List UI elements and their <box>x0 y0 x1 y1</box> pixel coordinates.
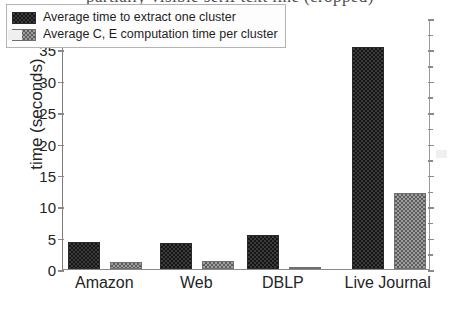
chart-legend: Average time to extract one clusterAvera… <box>6 4 286 48</box>
y-axis-tick-mark-right <box>428 239 434 241</box>
bar-web-series-2 <box>202 261 234 269</box>
y-axis-tick-mark-right <box>428 19 434 21</box>
scan-artifact <box>436 150 447 158</box>
bar-live-journal-series-1 <box>352 47 384 269</box>
y-axis-tick-label: 30 <box>30 74 56 89</box>
y-axis-tick-mark-right <box>428 50 434 52</box>
x-axis-tick-label: Live Journal <box>345 274 431 292</box>
y-axis-tick-mark-right <box>428 82 434 84</box>
legend-swatch-2 <box>12 29 36 41</box>
y-axis-tick-mark <box>58 239 64 241</box>
legend-swatch-1 <box>12 12 36 24</box>
y-axis-tick-mark-right <box>428 145 434 147</box>
bar-amazon-series-2 <box>110 262 142 269</box>
y-axis-minor-tick-mark <box>428 254 433 256</box>
y-axis-tick-mark <box>58 82 64 84</box>
y-axis-minor-tick-mark <box>428 160 433 162</box>
plot-area <box>62 19 430 270</box>
y-axis-tick-mark-right <box>428 207 434 209</box>
y-axis-minor-tick-mark <box>428 129 433 131</box>
y-axis-minor-tick-mark <box>428 192 433 194</box>
y-axis-minor-tick-mark <box>428 35 433 37</box>
y-axis-tick-mark <box>58 176 64 178</box>
y-axis-tick-mark-right <box>428 176 434 178</box>
y-axis-tick-mark-right <box>428 270 434 272</box>
x-axis-tick-label: Amazon <box>75 274 134 292</box>
legend-label-2: Average C, E computation time per cluste… <box>43 28 278 41</box>
bar-dblp-series-2 <box>289 267 321 269</box>
y-axis-tick-label: 0 <box>30 263 56 278</box>
bar-amazon-series-1 <box>68 242 100 269</box>
x-axis-tick-labels: AmazonWebDBLPLive Journal <box>62 274 430 300</box>
bar-chart-figure: time (seconds) 0510152025303540 AmazonWe… <box>0 0 451 311</box>
y-axis-tick-mark <box>58 50 64 52</box>
legend-entry-1: Average time to extract one cluster <box>12 9 278 26</box>
y-axis-tick-label: 10 <box>30 200 56 215</box>
y-axis-minor-tick-mark <box>428 97 433 99</box>
y-axis-minor-tick-mark <box>428 223 433 225</box>
y-axis-tick-mark <box>58 145 64 147</box>
bar-dblp-series-1 <box>247 235 279 269</box>
legend-entry-2: Average C, E computation time per cluste… <box>12 26 278 43</box>
y-axis-tick-label: 20 <box>30 137 56 152</box>
y-axis-tick-mark-right <box>428 113 434 115</box>
y-axis-tick-label: 15 <box>30 168 56 183</box>
y-axis-tick-mark <box>58 113 64 115</box>
y-axis-tick-mark <box>58 207 64 209</box>
y-axis-minor-tick-mark <box>428 66 433 68</box>
y-axis-tick-label: 25 <box>30 106 56 121</box>
legend-label-1: Average time to extract one cluster <box>43 11 236 24</box>
x-axis-tick-label: Web <box>180 274 213 292</box>
y-axis-tick-mark <box>58 270 64 272</box>
bar-web-series-1 <box>160 243 192 269</box>
y-axis-tick-label: 5 <box>30 231 56 246</box>
x-axis-tick-label: DBLP <box>262 274 304 292</box>
bar-live-journal-series-2 <box>394 193 426 269</box>
